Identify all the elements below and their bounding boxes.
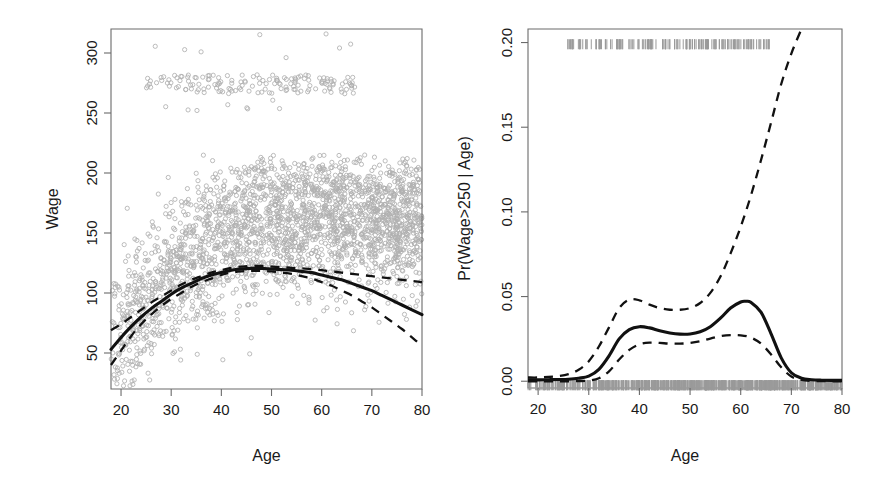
data-point [300,172,304,176]
data-point [281,285,285,289]
data-point [310,157,314,161]
data-point [239,279,243,283]
data-point [212,192,216,196]
data-point [297,167,301,171]
x-axis: 20304050607080 [530,388,851,417]
data-point [173,320,177,324]
data-point [372,165,376,169]
data-point [115,382,119,386]
data-point [351,329,355,333]
data-point [247,89,251,93]
data-point [280,198,284,202]
data-point [327,220,331,224]
data-point [386,301,390,305]
y-tick-label: 50 [83,345,100,362]
y-tick-label: 0.15 [498,113,515,142]
data-point [271,98,275,102]
data-point [415,299,419,303]
data-point [230,78,234,82]
data-point [174,315,178,319]
data-point [384,290,388,294]
data-point [204,292,208,296]
data-point [384,263,388,267]
data-point [150,220,154,224]
data-point [290,294,294,298]
data-point [149,352,153,356]
data-point [173,197,177,201]
right-panel-probability-plot: 203040506070800.000.050.100.150.20AgePr(… [440,0,875,486]
data-point [154,81,158,85]
data-point [115,376,119,380]
y-axis: 50100150200250300 [83,40,111,361]
x-tick-label: 70 [363,401,380,418]
y-tick-label: 0.05 [498,282,515,311]
data-point [127,348,131,352]
data-point [242,165,246,169]
data-point [155,236,159,240]
probability-curve [528,301,842,380]
data-point [397,169,401,173]
data-point [183,213,187,217]
data-point [121,364,125,368]
left-panel-plot: 2030405060708050100150200250300AgeWage [0,0,440,486]
data-point [305,263,309,267]
data-point [196,179,200,183]
data-point [377,320,381,324]
data-point [323,241,327,245]
data-point [370,258,374,262]
data-point [229,166,233,170]
data-point [317,203,321,207]
data-point [314,87,318,91]
data-point [366,293,370,297]
y-axis-title: Wage [44,188,61,229]
data-point [185,187,189,191]
y-axis: 0.000.050.100.150.20 [498,28,528,396]
data-point [379,171,383,175]
data-point [143,252,147,256]
data-point [226,103,230,107]
data-point [230,275,234,279]
data-point [319,240,323,244]
data-point [146,371,150,375]
data-point [295,208,299,212]
data-point [286,171,290,175]
data-point [126,254,130,258]
data-point [357,278,361,282]
y-tick-label: 300 [83,40,100,65]
data-point [216,194,220,198]
y-tick-label: 100 [83,280,100,305]
data-point [333,173,337,177]
data-point [184,314,188,318]
data-point [260,291,264,295]
data-point [249,336,253,340]
data-point [179,358,183,362]
data-point [293,161,297,165]
data-point [127,274,131,278]
data-point [266,248,270,252]
data-point [337,153,341,157]
data-point [366,267,370,271]
data-point [338,295,342,299]
data-point [414,196,418,200]
data-point [204,188,208,192]
data-point [213,282,217,286]
data-point [230,247,234,251]
data-point [284,56,288,60]
data-point [306,74,310,78]
data-point [307,78,311,82]
data-point [410,172,414,176]
data-point [167,317,171,321]
data-point [267,77,271,81]
data-point [318,153,322,157]
left-panel-wage-scatter: 2030405060708050100150200250300AgeWage [0,0,440,486]
x-axis-title: Age [671,447,700,464]
x-tick-label: 70 [783,400,800,417]
data-point [385,280,389,284]
data-point [127,369,131,373]
data-point [191,317,195,321]
data-point [383,159,387,163]
data-point [311,264,315,268]
data-point [231,291,235,295]
data-point [124,357,128,361]
data-point [387,164,391,168]
